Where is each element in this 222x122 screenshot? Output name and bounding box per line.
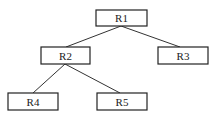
edge-r2-r5 bbox=[65, 64, 120, 93]
node-r5: R5 bbox=[97, 93, 147, 110]
node-label: R4 bbox=[27, 96, 40, 108]
nodes: R1 R2 R3 R4 R5 bbox=[8, 10, 208, 110]
node-r4: R4 bbox=[8, 93, 58, 110]
node-r2: R2 bbox=[41, 47, 90, 64]
node-label: R2 bbox=[59, 50, 72, 62]
node-label: R5 bbox=[116, 96, 129, 108]
edge-r1-r3 bbox=[121, 26, 180, 47]
edge-r2-r4 bbox=[33, 64, 65, 93]
edge-r1-r2 bbox=[66, 26, 121, 47]
node-label: R3 bbox=[177, 50, 190, 62]
node-label: R1 bbox=[115, 12, 128, 24]
tree-diagram: R1 R2 R3 R4 R5 bbox=[0, 0, 222, 122]
node-r1: R1 bbox=[96, 10, 147, 26]
node-r3: R3 bbox=[158, 47, 208, 64]
